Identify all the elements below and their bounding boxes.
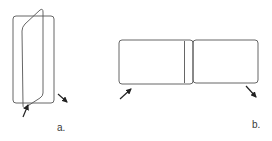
- figure-label-b: b.: [252, 120, 260, 130]
- frame-left: [119, 40, 193, 84]
- arrow-icon: [120, 89, 131, 99]
- figure-a: [13, 9, 67, 117]
- frame-front: [13, 16, 54, 103]
- diagram-canvas: [0, 0, 272, 141]
- figure-b: [119, 40, 258, 99]
- arrow-icon: [58, 94, 67, 102]
- frame-right: [193, 40, 258, 83]
- frame-skewed: [22, 9, 43, 107]
- arrow-icon: [246, 86, 256, 97]
- figure-label-a: a.: [57, 123, 65, 133]
